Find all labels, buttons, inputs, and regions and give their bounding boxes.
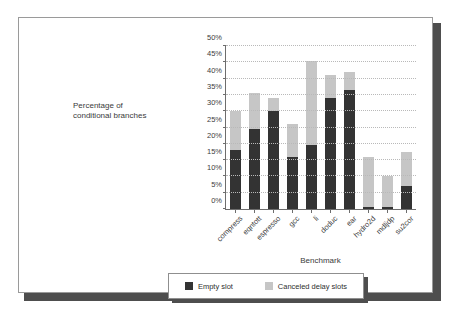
bar-segment-canceled-delay-slots [249,93,260,129]
bar-chart: 0%5%10%15%20%25%30%35%40%45%50% compress… [195,28,425,258]
bar-segment-empty-slot [249,129,260,209]
y-axis-tick-label: 40% [207,65,222,74]
bar-segment-canceled-delay-slots [363,157,374,208]
bar-column[interactable] [268,46,279,209]
y-axis-tick-label: 10% [207,163,222,172]
bar-segment-empty-slot [287,157,298,209]
bar-column[interactable] [287,46,298,209]
canceled-delay-slots-swatch [265,282,273,290]
bar-series-group [226,46,416,209]
bar-column[interactable] [325,46,336,209]
y-axis-tick-label: 30% [207,98,222,107]
y-axis-tick-label: 20% [207,130,222,139]
bar-column[interactable] [401,46,412,209]
y-axis-tick-mark [223,143,226,144]
gridline [226,175,416,176]
y-axis-tick-mark [223,78,226,79]
bar-column[interactable] [306,46,317,209]
y-axis-tick-mark [223,61,226,62]
y-axis-title-line-1: Percentage of [73,101,178,111]
y-axis-tick-label: 50% [207,33,222,42]
gridline [226,78,416,79]
legend-item-label: Empty slot [198,282,233,291]
x-axis-tick-labels: compresseqntottespressogcclidoducearhydr… [225,212,416,258]
y-axis-tick-mark [223,192,226,193]
bar-segment-empty-slot [382,207,393,209]
y-axis-tick-label: 0% [211,196,222,205]
legend-item-label: Canceled delay slots [278,282,347,291]
bar-segment-canceled-delay-slots [306,61,317,146]
x-axis-tick-label: mdljdp [374,214,396,236]
gridline [226,61,416,62]
x-axis-tick-label: gcc [286,214,301,229]
x-axis-tick-label: compress [215,214,244,243]
gridline [226,45,416,46]
y-axis-tick-mark [223,45,226,46]
slide-page: Percentage of conditional branches 0%5%1… [18,17,433,293]
x-axis-tick-label: doduc [318,214,339,235]
y-axis-tick-mark [223,175,226,176]
gridline [226,159,416,160]
y-axis-tick-mark [223,159,226,160]
bar-segment-canceled-delay-slots [344,72,355,90]
bar-segment-empty-slot [401,186,412,209]
y-axis-tick-mark [223,94,226,95]
bar-column[interactable] [382,46,393,209]
bar-column[interactable] [230,46,241,209]
y-axis-title-line-2: conditional branches [73,111,178,121]
empty-slot-swatch [185,282,193,290]
gridline [226,127,416,128]
x-axis-tick-label: ear [344,214,358,228]
x-axis-tick-label: li [311,214,320,223]
y-axis-tick-label: 5% [211,179,222,188]
y-axis-title: Percentage of conditional branches [73,101,178,121]
y-axis-tick-label: 25% [207,114,222,123]
y-axis-tick-label: 15% [207,147,222,156]
chart-legend: Empty slotCanceled delay slots [168,273,364,299]
y-axis-tick-mark [223,208,226,209]
bar-segment-canceled-delay-slots [401,152,412,186]
gridline [226,94,416,95]
legend-item[interactable]: Canceled delay slots [265,282,347,291]
y-axis-tick-mark [223,110,226,111]
bar-segment-canceled-delay-slots [230,111,241,150]
bar-segment-canceled-delay-slots [287,124,298,157]
bar-column[interactable] [344,46,355,209]
gridline [226,192,416,193]
gridline [226,110,416,111]
gridline [226,143,416,144]
bar-segment-empty-slot [363,207,374,209]
plot-area: 0%5%10%15%20%25%30%35%40%45%50% [225,46,416,210]
x-axis-title: Benchmark [225,256,416,265]
bar-column[interactable] [249,46,260,209]
bar-column[interactable] [363,46,374,209]
bar-segment-empty-slot [306,145,317,209]
y-axis-tick-mark [223,127,226,128]
y-axis-tick-label: 35% [207,81,222,90]
slide-container: Percentage of conditional branches 0%5%1… [0,0,460,314]
legend-item[interactable]: Empty slot [185,282,233,291]
y-axis-tick-label: 45% [207,49,222,58]
x-axis-tick-label: su2cor [393,214,415,236]
